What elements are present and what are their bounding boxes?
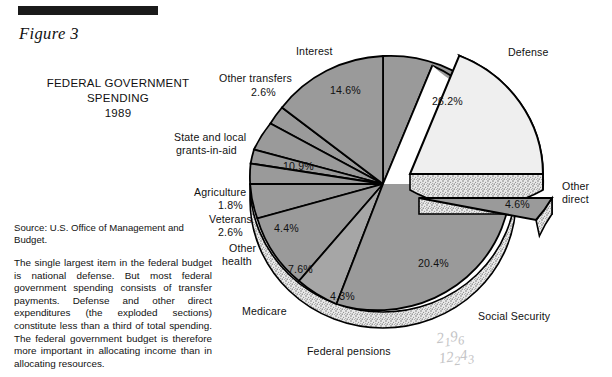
pie-label-interest: Interest [296, 45, 333, 58]
pie-label-social-security: Social Security [478, 310, 550, 323]
pie-label-other-direct-line-2: direct [562, 193, 589, 206]
pie-label-other-direct-line-1: Other [562, 180, 589, 193]
pie-value-veterans: 2.6% [218, 226, 243, 238]
pie-value-agriculture: 1.8% [218, 199, 243, 211]
pie-value-federal-pensions: 4.3% [330, 290, 355, 302]
pie-label-veterans: Veterans [209, 213, 252, 226]
pie-value-defense: 26.2% [432, 95, 463, 107]
pie-value-interest: 14.6% [330, 84, 361, 96]
pie-value-social-security: 20.4% [418, 257, 449, 269]
pie-label-other-health-line-2: health [222, 255, 252, 268]
pie-value-state-local-grants: 10.9% [283, 160, 314, 172]
pie-label-state-local-grants-line-1: State and local [174, 131, 246, 144]
pie-label-other-health-line-1: Other [229, 242, 256, 255]
pie-value-other-transfers: 2.6% [251, 86, 276, 98]
pie-value-other-direct: 4.6% [505, 198, 530, 210]
pie-label-medicare: Medicare [242, 305, 287, 318]
pie-label-defense: Defense [508, 46, 549, 59]
pie-value-medicare: 7.6% [288, 263, 313, 275]
pie-value-other-health: 4.4% [274, 222, 299, 234]
pie-label-federal-pensions: Federal pensions [307, 345, 391, 358]
pie-label-agriculture: Agriculture [194, 186, 246, 199]
pie-label-state-local-grants-line-2: grants-in-aid [176, 144, 237, 157]
pie-label-other-transfers: Other transfers [219, 72, 292, 85]
